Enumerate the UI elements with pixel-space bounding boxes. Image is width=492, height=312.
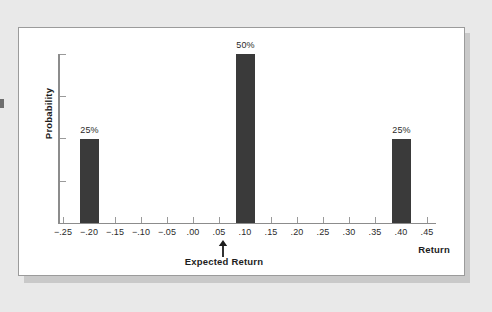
x-axis-tick: [323, 217, 324, 223]
x-axis-tick: [167, 217, 168, 223]
bar-value-label: 25%: [379, 125, 424, 135]
bar-value-label: 50%: [223, 40, 268, 50]
bar-40: [392, 139, 411, 223]
bar-10: [236, 54, 255, 223]
x-axis-tick: [141, 217, 142, 223]
figure-panel: 25% 50% 25% −.25 −.20 −.15 −.10 −.05 .00…: [18, 27, 465, 276]
up-arrow-icon: [216, 239, 230, 257]
x-axis-tick: [297, 217, 298, 223]
y-axis-tick: [60, 138, 66, 139]
x-axis-tick: [63, 217, 64, 223]
x-axis-tick: [427, 217, 428, 223]
x-axis-title: Return: [418, 244, 450, 255]
x-axis-tick: [271, 217, 272, 223]
bar-value-label: 25%: [67, 125, 112, 135]
x-axis-tick: [193, 217, 194, 223]
y-axis-tick: [60, 54, 66, 55]
y-axis-tick: [60, 181, 66, 182]
x-tick-label: .45: [410, 227, 444, 237]
y-axis-tick: [60, 96, 66, 97]
x-axis-line: [58, 223, 436, 224]
x-axis-tick: [375, 217, 376, 223]
x-axis-tick: [115, 217, 116, 223]
y-axis-line: [58, 54, 60, 224]
x-axis-tick: [349, 217, 350, 223]
expected-return-annotation-label: Expected Return: [144, 256, 304, 267]
chart-plot-area: 25% 50% 25% −.25 −.20 −.15 −.10 −.05 .00…: [19, 28, 464, 275]
y-axis-title: Probability: [43, 79, 54, 149]
page-edge-artifact: [0, 99, 4, 108]
bar-neg-20: [80, 139, 99, 223]
page-canvas: 25% 50% 25% −.25 −.20 −.15 −.10 −.05 .00…: [0, 0, 492, 312]
x-axis-tick: [219, 217, 220, 223]
